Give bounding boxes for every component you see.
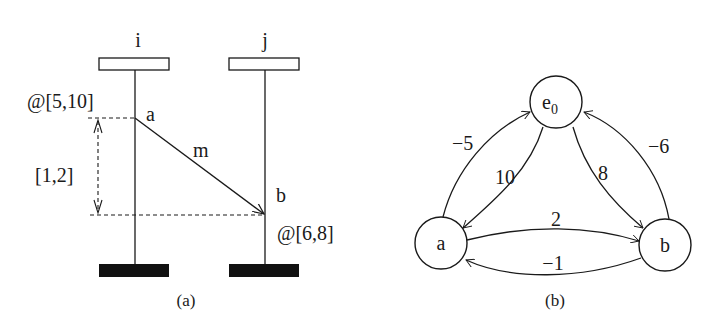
edge-a-to-b xyxy=(467,229,639,241)
panel-a-caption: (a) xyxy=(177,291,196,310)
process-i-start-bar xyxy=(99,58,169,70)
edge-a-to-e0 xyxy=(443,112,530,217)
event-a-label: a xyxy=(146,103,155,125)
edge-e0-to-a-weight: 10 xyxy=(495,166,515,188)
delay-interval-label: [1,2] xyxy=(35,164,73,186)
event-a-time-window: @[5,10] xyxy=(27,90,94,113)
edge-b-to-e0 xyxy=(584,112,669,219)
process-j-start-bar xyxy=(229,58,299,70)
node-a-label: a xyxy=(437,232,446,254)
panel-a: i j @[5,10] a m [1,2] b @[6,8] (a) xyxy=(27,29,334,310)
edge-a-to-e0-weight: −5 xyxy=(452,132,473,154)
process-j-end-bar xyxy=(229,264,299,277)
process-i-label: i xyxy=(135,29,141,51)
node-b-label: b xyxy=(660,234,670,256)
event-b-time-window: @[6,8] xyxy=(277,222,334,245)
edge-e0-to-b xyxy=(573,127,643,228)
message-m-arrow xyxy=(135,118,264,214)
panel-b-caption: (b) xyxy=(545,291,565,310)
panel-b: e0 a b −5 10 8 −6 2 −1 (b) xyxy=(415,76,691,310)
message-m-label: m xyxy=(193,139,209,161)
edge-e0-to-b-weight: 8 xyxy=(598,162,608,184)
edge-b-to-a-weight: −1 xyxy=(542,252,563,274)
process-j-label: j xyxy=(261,29,268,52)
edge-b-to-e0-weight: −6 xyxy=(648,135,669,157)
event-b-label: b xyxy=(276,184,286,206)
edge-a-to-b-weight: 2 xyxy=(551,208,561,230)
process-i-end-bar xyxy=(99,264,169,277)
